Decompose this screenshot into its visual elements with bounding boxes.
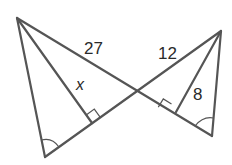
label-12: 12 bbox=[158, 44, 177, 63]
line-top-left-to-bottom-right bbox=[17, 18, 212, 136]
label-x: x bbox=[75, 76, 85, 93]
angle-arc-right-bottom bbox=[195, 118, 214, 126]
label-8: 8 bbox=[193, 85, 202, 104]
label-27: 27 bbox=[84, 39, 103, 58]
similar-triangles-diagram: 27 12 x 8 bbox=[0, 0, 232, 165]
angle-arc-left-bottom bbox=[42, 139, 60, 147]
